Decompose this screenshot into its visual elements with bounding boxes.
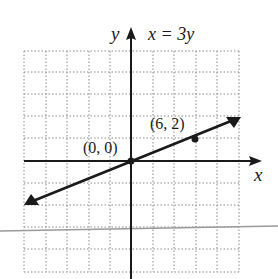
point-origin (128, 158, 135, 165)
point-label-origin: (0, 0) (83, 139, 118, 157)
point-6-2 (192, 136, 199, 143)
x-axis-label: x (253, 164, 263, 185)
point-label-6-2: (6, 2) (150, 115, 185, 133)
y-axis (126, 27, 136, 279)
y-axis-label: y (109, 23, 120, 44)
coordinate-graph: y x x = 3y (0, 0) (6, 2) (0, 0, 278, 279)
equation-label: x = 3y (147, 24, 194, 44)
